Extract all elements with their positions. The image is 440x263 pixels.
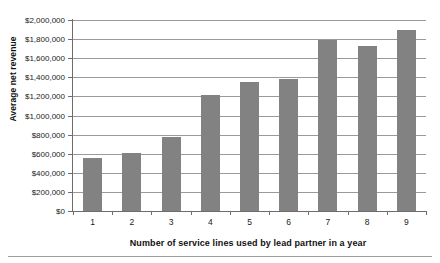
x-axis-tick <box>308 211 309 215</box>
y-axis-tick <box>68 173 73 174</box>
y-axis-tick-label: $1,400,000 <box>25 73 65 82</box>
y-axis-tick <box>68 77 73 78</box>
x-axis-tick <box>191 211 192 215</box>
cut-off-caption <box>22 0 352 2</box>
bar <box>83 158 102 211</box>
y-axis-tick <box>68 154 73 155</box>
x-axis-tick <box>387 211 388 215</box>
gridline <box>73 39 426 40</box>
y-axis-tick <box>68 39 73 40</box>
bar <box>240 82 259 211</box>
x-axis-tick <box>73 211 74 215</box>
x-axis-tick-label: 9 <box>391 217 421 227</box>
bar <box>318 40 337 211</box>
bar <box>279 79 298 211</box>
x-axis-tick-label: 7 <box>313 217 343 227</box>
x-axis-tick <box>230 211 231 215</box>
bottom-divider <box>8 256 432 257</box>
plot-area: $0$200,000$400,000$600,000$800,000$1,000… <box>73 20 426 211</box>
x-axis-tick-label: 4 <box>195 217 225 227</box>
y-axis-tick-label: $1,800,000 <box>25 35 65 44</box>
y-axis-tick <box>68 96 73 97</box>
x-axis-tick-label: 5 <box>235 217 265 227</box>
gridline <box>73 20 426 21</box>
bar <box>358 46 377 211</box>
y-axis-tick <box>68 135 73 136</box>
bar-chart-figure: Average net revenue $0$200,000$400,000$6… <box>0 0 440 263</box>
x-axis-tick-label: 3 <box>156 217 186 227</box>
bar <box>122 153 141 211</box>
y-axis-title: Average net revenue <box>8 14 18 144</box>
x-axis-tick-label: 6 <box>274 217 304 227</box>
x-axis-tick <box>151 211 152 215</box>
x-axis-tick-label: 2 <box>117 217 147 227</box>
x-axis-tick-label: 8 <box>352 217 382 227</box>
y-axis-tick-label: $800,000 <box>32 130 65 139</box>
y-axis-tick-label: $1,600,000 <box>25 54 65 63</box>
y-axis-tick-label: $1,000,000 <box>25 111 65 120</box>
x-axis-tick-label: 1 <box>78 217 108 227</box>
y-axis-tick-label: $1,200,000 <box>25 92 65 101</box>
y-axis-tick <box>68 192 73 193</box>
bar <box>162 137 181 211</box>
x-axis-tick <box>426 211 427 215</box>
y-axis-tick-label: $400,000 <box>32 168 65 177</box>
y-axis-tick-label: $2,000,000 <box>25 16 65 25</box>
y-axis-tick <box>68 116 73 117</box>
y-axis-tick <box>68 20 73 21</box>
y-axis-tick-label: $600,000 <box>32 149 65 158</box>
y-axis-tick-label: $0 <box>56 207 65 216</box>
y-axis-tick-label: $200,000 <box>32 187 65 196</box>
bar <box>201 95 220 211</box>
x-axis-tick <box>269 211 270 215</box>
x-axis-title: Number of service lines used by lead par… <box>70 238 426 248</box>
x-axis-line <box>72 211 427 212</box>
x-axis-tick <box>348 211 349 215</box>
bar <box>397 30 416 211</box>
y-axis-tick <box>68 58 73 59</box>
x-axis-tick <box>112 211 113 215</box>
